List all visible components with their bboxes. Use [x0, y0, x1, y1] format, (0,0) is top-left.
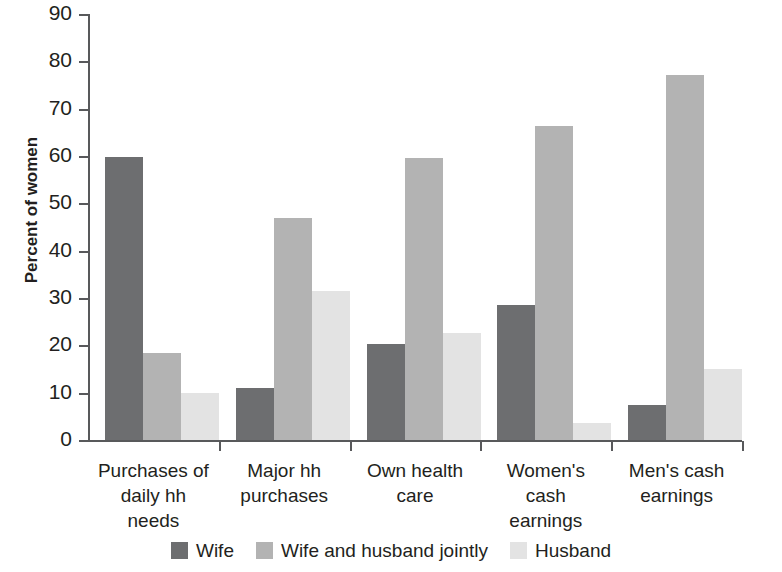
bar [573, 423, 611, 440]
y-axis-tick: 20 [79, 345, 88, 347]
bar-chart: Percent of women 9080706050403020100 Pur… [0, 0, 782, 572]
x-axis-label: Women'scashearnings [480, 458, 611, 533]
bar-group [497, 14, 611, 440]
y-axis-tick-label: 70 [49, 96, 72, 120]
bar [236, 388, 274, 440]
bar [367, 344, 405, 440]
x-axis-tick [219, 441, 221, 451]
x-axis-label: Own healthcare [350, 458, 481, 508]
x-axis-line [88, 440, 742, 442]
y-axis-tick-label: 90 [49, 1, 72, 25]
legend-swatch-icon [510, 542, 527, 559]
bar-group [105, 14, 219, 440]
bar [628, 405, 666, 441]
legend-swatch-icon [171, 542, 188, 559]
x-axis-tick [611, 441, 613, 451]
x-axis-tick [480, 441, 482, 451]
y-axis-tick-label: 10 [49, 380, 72, 404]
x-axis-label-line: earnings [480, 508, 611, 533]
y-axis-tick-label: 30 [49, 285, 72, 309]
x-axis-label: Men's cashearnings [611, 458, 742, 508]
x-axis-label-line: care [350, 483, 481, 508]
bar-group [236, 14, 350, 440]
x-axis-label-line: Purchases of [88, 458, 219, 483]
x-axis-label: Purchases ofdaily hhneeds [88, 458, 219, 533]
y-axis-tick-label: 80 [49, 48, 72, 72]
y-axis-tick: 0 [79, 440, 88, 442]
y-axis-tick: 70 [79, 109, 88, 111]
bar [143, 353, 181, 440]
bar [405, 158, 443, 440]
chart-legend: WifeWife and husband jointlyHusband [0, 540, 782, 561]
bar [666, 75, 704, 440]
bar-group [367, 14, 481, 440]
y-axis-line [88, 14, 90, 441]
y-axis-tick: 30 [79, 298, 88, 300]
y-axis-title: Percent of women [22, 100, 42, 320]
bar [105, 157, 143, 440]
bar [181, 393, 219, 440]
y-axis-tick: 50 [79, 203, 88, 205]
y-axis-tick: 10 [79, 393, 88, 395]
x-axis-label-line: needs [88, 508, 219, 533]
legend-swatch-icon [256, 542, 273, 559]
bar [497, 305, 535, 440]
x-axis-label-line: daily hh [88, 483, 219, 508]
y-axis-tick: 40 [79, 251, 88, 253]
x-axis-label-line: earnings [611, 483, 742, 508]
y-axis-tick-label: 0 [60, 427, 72, 451]
legend-item[interactable]: Wife and husband jointly [256, 540, 488, 561]
y-axis-tick: 60 [79, 156, 88, 158]
legend-label: Wife [196, 540, 234, 561]
bar [704, 369, 742, 440]
legend-label: Wife and husband jointly [281, 540, 488, 561]
legend-item[interactable]: Husband [510, 540, 611, 561]
y-axis-tick-label: 60 [49, 143, 72, 167]
y-axis-tick: 80 [79, 61, 88, 63]
x-axis-label-line: purchases [219, 483, 350, 508]
bar-group [628, 14, 742, 440]
x-axis-label: Major hhpurchases [219, 458, 350, 508]
x-axis-label-line: cash [480, 483, 611, 508]
legend-item[interactable]: Wife [171, 540, 234, 561]
y-axis-tick: 90 [79, 14, 88, 16]
x-axis-label-line: Own health [350, 458, 481, 483]
bar [312, 291, 350, 440]
bar [274, 218, 312, 440]
x-axis-label-line: Men's cash [611, 458, 742, 483]
x-axis-tick [350, 441, 352, 451]
x-axis-label-line: Major hh [219, 458, 350, 483]
plot-area: 9080706050403020100 [88, 14, 742, 440]
y-axis-tick-label: 20 [49, 332, 72, 356]
y-axis-tick-label: 40 [49, 238, 72, 262]
bar [443, 333, 481, 440]
y-axis-tick-label: 50 [49, 190, 72, 214]
x-axis-label-line: Women's [480, 458, 611, 483]
bar [535, 126, 573, 440]
x-axis-tick [742, 441, 744, 451]
legend-label: Husband [535, 540, 611, 561]
